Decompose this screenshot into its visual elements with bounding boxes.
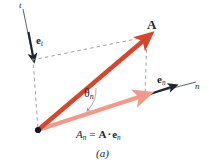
t-axis-dashed-extension [33,58,38,130]
equation-vector-a: A [99,128,107,140]
vector-a-arrow [38,41,143,130]
vector-projection-figure: t et A en n θn An=A·en (a) [0,0,209,168]
equation-equals: = [89,128,95,140]
axis-label-t: t [19,1,22,10]
unit-vector-n-label: en [157,74,166,87]
figure-caption: (a) [96,148,109,159]
figure-canvas [0,0,209,168]
equation-rhs-subscript: n [117,134,121,142]
origin-point-dot [35,127,41,133]
dashed-line-top [32,37,146,60]
unit-vector-t-arrow [29,32,34,56]
unit-vector-n-subscript: n [162,79,166,87]
vector-a-label: A [147,18,156,31]
axis-label-n: n [195,82,200,91]
angle-label: θn [84,87,94,101]
unit-vector-n-arrow [147,87,171,95]
unit-vector-t-label: et [36,35,43,48]
equation-lhs-symbol: A [76,128,83,140]
equation-dot-operator: · [108,128,112,140]
angle-subscript: n [90,92,94,101]
equation-lhs-subscript: n [83,134,87,142]
projection-equation: An=A·en [76,129,121,142]
dashed-line-projection-drop [145,36,147,96]
unit-vector-t-subscript: t [41,40,43,48]
projection-vector-arrow [38,97,139,130]
